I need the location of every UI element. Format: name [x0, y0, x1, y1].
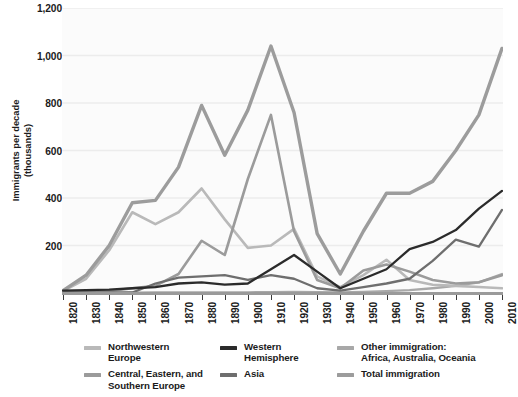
x-tick-mark [225, 295, 226, 300]
y-axis-tick-labels: 2004006008001,0001,200 [14, 0, 62, 300]
line-swatch-icon [337, 373, 354, 377]
x-tick-mark [179, 295, 180, 300]
chart-legend: Northwestern EuropeCentral, Eastern, and… [62, 341, 509, 393]
legend-item-label: Western Hemisphere [244, 341, 298, 363]
legend-column-2: Western HemisphereAsia [220, 341, 330, 385]
y-tick-label: 600 [18, 145, 62, 156]
x-tick-label: 1830 [91, 302, 102, 324]
x-tick-label: 1920 [299, 302, 310, 324]
legend-item-label: Asia [244, 368, 264, 379]
x-tick-mark [63, 295, 64, 300]
x-tick-mark [202, 295, 203, 300]
legend-item-label: Central, Eastern, and Southern Europe [108, 368, 203, 390]
line-swatch-icon [337, 346, 354, 350]
y-tick-label: 200 [18, 240, 62, 251]
legend-column-1: Northwestern EuropeCentral, Eastern, and… [84, 341, 214, 396]
x-tick-mark [155, 295, 156, 300]
line-swatch-icon [220, 346, 237, 350]
y-tick-label: 800 [18, 98, 62, 109]
x-tick-label: 1880 [207, 302, 218, 324]
x-tick-label: 1820 [68, 302, 79, 324]
x-tick-mark [433, 295, 434, 300]
legend-item[interactable]: Western Hemisphere [220, 341, 330, 363]
x-tick-mark [363, 295, 364, 300]
series-canvas [62, 8, 503, 293]
x-tick-mark [410, 295, 411, 300]
y-tick-label: 1,200 [18, 3, 62, 14]
x-tick-mark [317, 295, 318, 300]
x-tick-label: 2000 [484, 302, 495, 324]
y-tick-label: 400 [18, 193, 62, 204]
x-tick-label: 1850 [137, 302, 148, 324]
x-tick-label: 1930 [322, 302, 333, 324]
x-tick-label: 1870 [184, 302, 195, 324]
x-tick-label: 1860 [160, 302, 171, 324]
x-tick-mark [271, 295, 272, 300]
x-tick-mark [502, 295, 503, 300]
x-tick-mark [248, 295, 249, 300]
line-swatch-icon [84, 373, 101, 377]
legend-column-3: Other immigration: Africa, Australia, Oc… [337, 341, 517, 385]
plot-area [62, 8, 503, 293]
legend-item[interactable]: Northwestern Europe [84, 341, 214, 363]
x-tick-label: 1950 [368, 302, 379, 324]
x-tick-label: 1940 [345, 302, 356, 324]
y-tick-label: 1,000 [18, 50, 62, 61]
legend-item-label: Total immigration [361, 368, 440, 379]
legend-item-label: Northwestern Europe [108, 341, 169, 363]
x-tick-mark [340, 295, 341, 300]
legend-item[interactable]: Total immigration [337, 368, 517, 379]
x-axis-tick-labels: 1820183018401850186018701880189019001910… [62, 295, 503, 340]
x-tick-label: 1960 [391, 302, 402, 324]
x-tick-label: 1980 [438, 302, 449, 324]
x-tick-label: 1890 [230, 302, 241, 324]
x-tick-label: 1990 [461, 302, 472, 324]
legend-item[interactable]: Central, Eastern, and Southern Europe [84, 368, 214, 390]
series-line [63, 115, 502, 293]
x-tick-mark [132, 295, 133, 300]
x-tick-label: 1900 [253, 302, 264, 324]
x-tick-label: 1910 [276, 302, 287, 324]
x-tick-mark [387, 295, 388, 300]
line-swatch-icon [84, 346, 101, 350]
legend-item[interactable]: Other immigration: Africa, Australia, Oc… [337, 341, 517, 363]
legend-item-label: Other immigration: Africa, Australia, Oc… [361, 341, 475, 363]
x-tick-mark [456, 295, 457, 300]
line-swatch-icon [220, 373, 237, 377]
x-tick-mark [109, 295, 110, 300]
x-tick-mark [86, 295, 87, 300]
x-tick-label: 2010 [507, 302, 518, 324]
x-tick-label: 1970 [415, 302, 426, 324]
x-tick-mark [294, 295, 295, 300]
x-tick-label: 1840 [114, 302, 125, 324]
x-tick-mark [479, 295, 480, 300]
legend-item[interactable]: Asia [220, 368, 330, 379]
